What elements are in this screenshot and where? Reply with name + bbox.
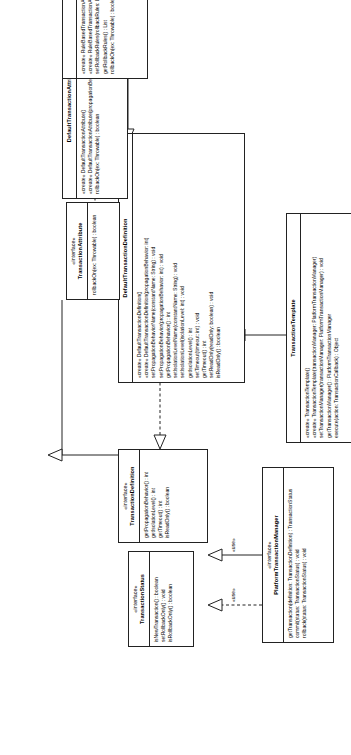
operations-compartment: isNewTransaction() : boolean setRollback…: [149, 552, 178, 646]
operation: setTransactionManager(transactionManager…: [318, 218, 325, 438]
operations-compartment: getPropagationBehavior() : int getIsolat…: [139, 450, 175, 542]
operation: setReadOnly(readOnly: boolean) : void: [208, 138, 215, 378]
class-name: TransactionStatus: [139, 556, 146, 642]
operation: isRollbackOnly() : boolean: [167, 556, 174, 642]
class-stereotype: «interface»: [266, 472, 273, 638]
link-ta-td: [62, 300, 120, 455]
operations-compartment: «create» RuleBasedTransactionAttribute()…: [76, 0, 119, 78]
operation: setIsolationLevelName(constantName: Stri…: [172, 138, 179, 378]
operation: getPropagationBehavior() : int: [165, 138, 172, 378]
class-default-transaction-definition[interactable]: DefaultTransactionDefinition «create» De…: [118, 133, 245, 383]
class-header: RuleBasedTransactionAttribute: [63, 0, 76, 78]
class-transaction-definition[interactable]: «interface» TransactionDefinition getPro…: [118, 449, 208, 543]
operations-compartment: getTransaction(definition: TransactionDe…: [283, 468, 312, 642]
class-name: PlatformTransactionManager: [273, 472, 280, 638]
operation: «create» DefaultTransactionDefinition(pr…: [143, 138, 150, 378]
operations-compartment: «create» TransactionTemplate() «create» …: [300, 214, 343, 442]
operation: isReadOnly() : boolean: [215, 138, 222, 378]
class-header: «interface» TransactionStatus: [129, 552, 149, 646]
operation: getTimeout() : int: [157, 454, 164, 538]
operation: setTimeout(timeout: int) : void: [194, 138, 201, 378]
arrowhead-ptm-ts: [208, 599, 222, 611]
operation: getPropagationBehavior() : int: [143, 454, 150, 538]
class-name: TransactionDefinition: [129, 454, 136, 538]
class-name: TransactionAttribute: [77, 207, 84, 295]
relationship-label-use-ts: «use»: [230, 588, 236, 602]
class-rule-based-transaction-attribute[interactable]: RuleBasedTransactionAttribute «create» R…: [62, 0, 148, 79]
class-stereotype: «interface»: [132, 556, 139, 642]
uml-diagram-canvas: «interface» PlatformTransactionManager g…: [0, 0, 351, 755]
operation: getIsolationLevel() : int: [187, 138, 194, 378]
operation: getTransaction(definition: TransactionDe…: [287, 472, 294, 638]
operation: getIsolationLevel() : int: [150, 454, 157, 538]
operation: «create» RuleBasedTransactionAttribute(): [80, 0, 87, 74]
class-transaction-template[interactable]: TransactionTemplate «create» Transaction…: [286, 213, 351, 443]
operation: «create» TransactionTemplate(transaction…: [311, 218, 318, 438]
operation: rollback(status: TransactionStatus) : vo…: [301, 472, 308, 638]
operations-compartment: rollbackOn(ex: Throwable) : boolean: [87, 203, 101, 299]
operation: getRollbackRules() : List: [102, 0, 109, 74]
operation: setIsolationLevel(isolationLevel: int) :…: [179, 138, 186, 378]
operation: setPropagationBehavior(propagationBehavi…: [158, 138, 165, 378]
operation: isNewTransaction() : boolean: [153, 556, 160, 642]
operation: «create» TransactionTemplate(): [304, 218, 311, 438]
operation: «create» RuleBasedTransactionAttribute(p…: [87, 0, 94, 74]
operation: execute(action: TransactionCallback) : O…: [333, 218, 340, 438]
operation: setRollbackOnly() : void: [160, 556, 167, 642]
arrowhead-ptm-td: [208, 549, 222, 561]
class-name: RuleBasedTransactionAttribute: [66, 0, 73, 74]
class-header: «interface» PlatformTransactionManager: [263, 468, 283, 642]
operation: setPropagationBehaviorName(constantName:…: [150, 138, 157, 378]
class-stereotype: «interface»: [122, 454, 129, 538]
arrowhead-dtd-td: [154, 435, 166, 449]
operation: isReadOnly() : boolean: [164, 454, 171, 538]
class-transaction-attribute[interactable]: «interface» TransactionAttribute rollbac…: [66, 202, 120, 300]
class-transaction-status[interactable]: «interface» TransactionStatus isNewTrans…: [128, 551, 194, 647]
operation: rollbackOn(ex: Throwable) : boolean: [91, 207, 98, 295]
class-name: TransactionTemplate: [290, 218, 297, 438]
relationship-label-use-td: «use»: [230, 538, 236, 552]
class-header: «interface» TransactionAttribute: [67, 203, 87, 299]
arrowhead-ta-td: [48, 449, 62, 461]
class-stereotype: «interface»: [70, 207, 77, 295]
operations-compartment: «create» DefaultTransactionDefinition() …: [132, 134, 226, 382]
operation: «create» DefaultTransactionDefinition(): [136, 138, 143, 378]
class-header: «interface» TransactionDefinition: [119, 450, 139, 542]
class-header: TransactionTemplate: [287, 214, 300, 442]
class-platform-transaction-manager[interactable]: «interface» PlatformTransactionManager g…: [262, 467, 334, 643]
operation: commit(status: TransactionStatus) : void: [294, 472, 301, 638]
operation: rollbackOn(ex: Throwable) : boolean: [109, 0, 116, 74]
operation: getTimeout() : int: [201, 138, 208, 378]
operation: getTransactionManager() : PlatformTransa…: [326, 218, 333, 438]
operation: setRollbackRules(rollbackRules: List) : …: [94, 0, 101, 74]
